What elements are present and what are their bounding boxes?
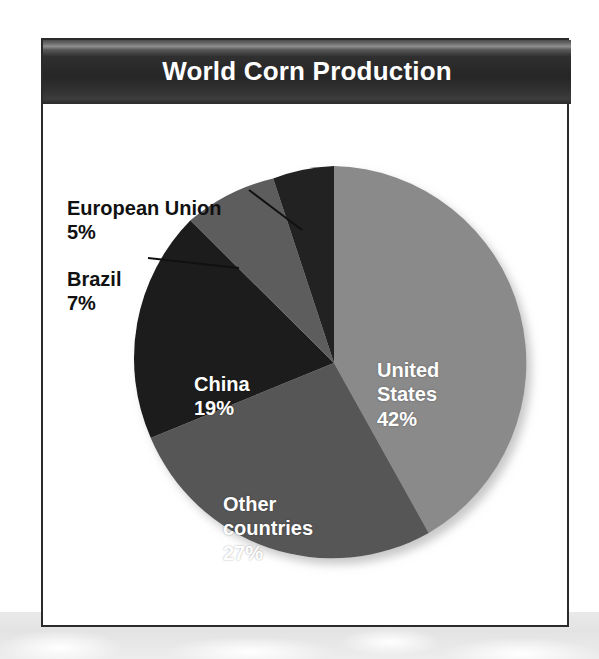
figure-frame: World Corn Production <box>41 38 569 627</box>
pie-label-other-countries: Other countries 27% <box>223 492 313 565</box>
page-background: World Corn Production <box>0 0 599 659</box>
pie-label-european-union: European Union 5% <box>67 196 221 245</box>
pie-label-china: China 19% <box>194 372 250 421</box>
page-title: World Corn Production <box>162 58 452 86</box>
pie-chart-plot-area: European Union 5% Brazil 7% United State… <box>43 104 567 625</box>
chart-title-bar: World Corn Production <box>43 40 571 104</box>
pie-label-brazil: Brazil 7% <box>67 267 121 316</box>
pie-label-united-states: United States 42% <box>377 358 439 431</box>
